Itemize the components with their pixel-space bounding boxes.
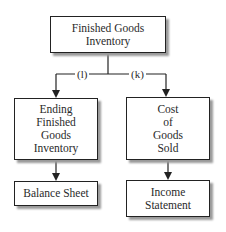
arrow-head-icon <box>52 90 60 98</box>
node-income-statement: Income Statement <box>126 180 210 217</box>
node-balance-sheet: Balance Sheet <box>14 181 98 206</box>
edge-label-k: (k) <box>129 68 146 80</box>
arrow-head-icon <box>52 173 60 181</box>
arrow-head-icon <box>162 89 170 97</box>
arrow-head-icon <box>164 172 172 180</box>
node-cost-of-goods-sold: Cost of Goods Sold <box>126 97 210 160</box>
edge-label-l: (l) <box>75 68 89 80</box>
node-finished-goods-inventory: Finished Goods Inventory <box>50 16 166 53</box>
node-ending-finished-goods-inventory: Ending Finished Goods Inventory <box>14 98 98 160</box>
